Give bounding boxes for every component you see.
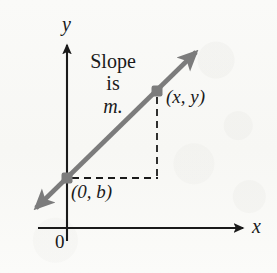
point-label-y-intercept: (0, b)	[71, 182, 112, 201]
x-axis-label: x	[252, 216, 261, 236]
slope-word: Slope	[74, 50, 152, 72]
origin-label: 0	[55, 232, 65, 251]
point-label-general-text: (x, y)	[166, 86, 205, 107]
slope-symbol: m.	[74, 95, 152, 117]
y-axis-label: y	[62, 14, 71, 34]
is-word: is	[74, 72, 152, 94]
slope-intercept-diagram: y x 0 (x, y) (0, b) Slope is m.	[0, 0, 277, 273]
coordinate-plane-graphic	[0, 0, 277, 273]
point-label-general: (x, y)	[166, 87, 205, 106]
slope-annotation: Slope is m.	[74, 50, 152, 117]
point-label-y-intercept-text: (0, b)	[71, 181, 112, 202]
point-marker-general	[152, 86, 163, 97]
